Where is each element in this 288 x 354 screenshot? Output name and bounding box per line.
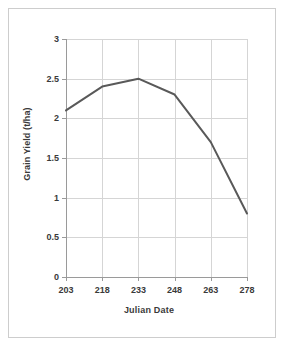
x-tick-mark xyxy=(102,277,103,281)
x-tick-mark xyxy=(247,277,248,281)
y-tick-label: 2.5 xyxy=(46,74,59,84)
grain-yield-line xyxy=(66,79,247,214)
y-tick-label: 2 xyxy=(54,113,59,123)
y-tick-label: 1 xyxy=(54,193,59,203)
y-axis-title: Grain Yield (t/ha) xyxy=(22,74,32,214)
x-tick-label: 203 xyxy=(58,285,73,295)
y-tick-label: 3 xyxy=(54,34,59,44)
x-tick-label: 218 xyxy=(95,285,110,295)
x-tick-mark xyxy=(175,277,176,281)
y-tick-label: 1.5 xyxy=(46,153,59,163)
chart-figure: Grain Yield (t/ha) Julian Date 00.511.52… xyxy=(0,0,288,354)
x-tick-mark xyxy=(66,277,67,281)
x-tick-label: 278 xyxy=(239,285,254,295)
x-tick-mark xyxy=(211,277,212,281)
x-tick-label: 263 xyxy=(203,285,218,295)
y-tick-label: 0.5 xyxy=(46,232,59,242)
x-tick-mark xyxy=(138,277,139,281)
gridline-vertical xyxy=(247,39,248,277)
x-axis-line xyxy=(66,277,248,278)
x-tick-label: 248 xyxy=(167,285,182,295)
data-series-line xyxy=(66,39,247,277)
x-tick-label: 233 xyxy=(131,285,146,295)
figure-border: Grain Yield (t/ha) Julian Date 00.511.52… xyxy=(8,8,276,338)
plot-area: 00.511.522.53 203218233248263278 xyxy=(66,39,247,277)
y-tick-label: 0 xyxy=(54,272,59,282)
x-axis-title: Julian Date xyxy=(39,305,259,315)
